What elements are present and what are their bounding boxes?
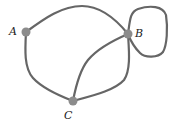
- edge-a-c: [25, 32, 73, 101]
- edge-c-b-inner: [73, 34, 128, 101]
- node-b-label: B: [134, 27, 143, 40]
- node-b: [124, 30, 133, 39]
- edge-a-b: [26, 6, 128, 34]
- node-a: [22, 28, 31, 37]
- graph-diagram: A B C: [0, 0, 178, 124]
- node-c-label: C: [64, 109, 73, 122]
- edge-b-loop: [128, 7, 167, 57]
- node-a-label: A: [8, 25, 17, 38]
- edge-c-b-outer: [73, 34, 129, 101]
- node-c: [69, 97, 78, 106]
